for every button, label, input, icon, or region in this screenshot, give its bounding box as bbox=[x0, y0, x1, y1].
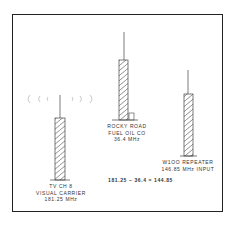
label-line: 181.25 MHz bbox=[36, 196, 86, 203]
label-line: W1OO REPEATER bbox=[160, 159, 216, 166]
label-line: 146.85 MHz INPUT bbox=[160, 166, 216, 173]
tv-label: TV CH 8 VISUAL CARRIER 181.25 MHz bbox=[36, 183, 86, 203]
repeater-label: W1OO REPEATER 146.85 MHz INPUT bbox=[160, 159, 216, 172]
repeater-tower-icon bbox=[180, 70, 197, 156]
label-line: 36.4 MHz bbox=[102, 136, 152, 143]
equation: 181.25 − 36.4 = 144.85 bbox=[108, 177, 173, 184]
rocky-road-tower-icon bbox=[112, 32, 138, 120]
rocky-road-label: ROCKY ROAD FUEL OIL CO 36.4 MHz bbox=[102, 123, 152, 143]
label-line: ROCKY ROAD bbox=[102, 123, 152, 130]
tv-tower-icon bbox=[50, 95, 70, 180]
